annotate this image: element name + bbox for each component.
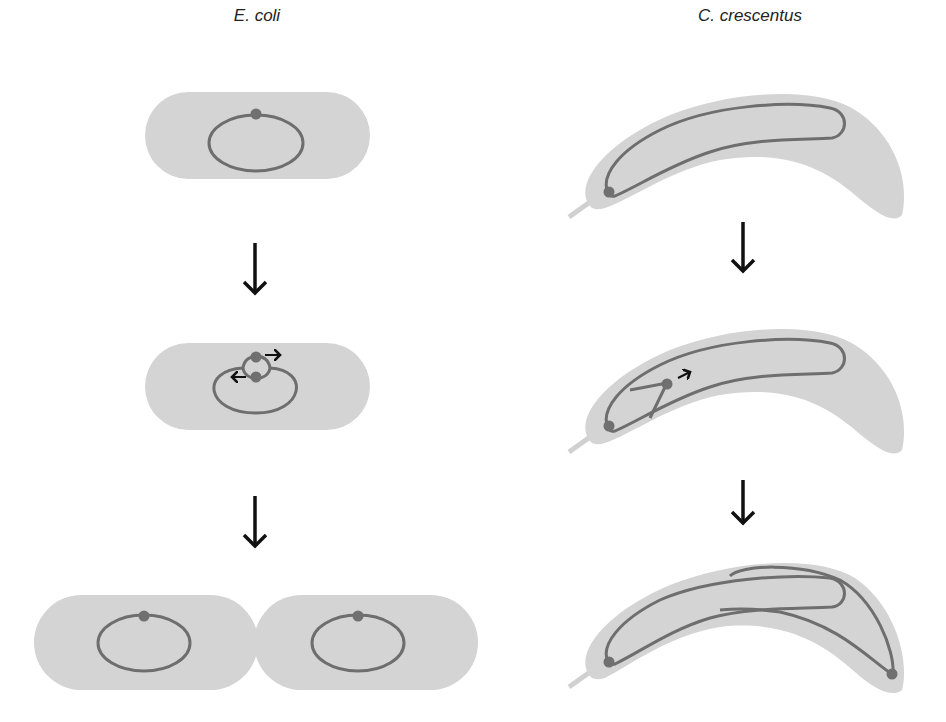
origin-dot: [353, 611, 364, 622]
down-arrow-icon: [244, 496, 266, 546]
origin-dot: [604, 187, 615, 198]
down-arrow-icon: [732, 480, 754, 523]
stalk: [569, 672, 590, 687]
ecoli-cell-1: [145, 92, 370, 179]
ccrescentus-cell-1: [569, 94, 904, 218]
ecoli-daughter-cells: [34, 595, 478, 690]
stalk: [569, 202, 590, 217]
stalk: [569, 437, 590, 452]
ccrescentus-cell-2: [569, 329, 904, 453]
down-arrow-icon: [244, 243, 266, 293]
ecoli-cell-2: [145, 343, 370, 430]
origin-dot: [604, 657, 615, 668]
diagram-canvas: [0, 0, 946, 722]
origin-dot: [662, 379, 673, 390]
origin-dot: [251, 372, 262, 383]
origin-dot: [139, 611, 150, 622]
down-arrow-icon: [732, 222, 754, 271]
ccrescentus-cell-3: [569, 563, 904, 693]
origin-dot: [604, 421, 615, 432]
origin-dot: [887, 669, 898, 680]
origin-dot: [251, 352, 262, 363]
origin-dot: [251, 109, 262, 120]
